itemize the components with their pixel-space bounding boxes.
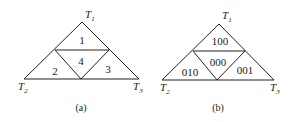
caption-b: (b) [212, 102, 224, 114]
caption-a: (a) [75, 102, 86, 114]
region-center-b: 000 [210, 56, 227, 68]
vertex-t2-b: T2 [160, 81, 170, 96]
region-right-b: 001 [237, 64, 254, 76]
vertex-t3-a: T3 [133, 80, 143, 95]
vertex-t3-b: T3 [270, 81, 280, 96]
region-left-b: 010 [182, 66, 199, 78]
figure-a [24, 22, 139, 79]
region-left-a: 2 [52, 65, 58, 77]
region-top-b: 100 [212, 35, 229, 47]
vertex-t1-a: T1 [85, 8, 95, 23]
outer-triangle-b [162, 24, 274, 80]
region-right-a: 3 [105, 63, 111, 75]
region-center-a: 4 [78, 55, 84, 67]
region-top-a: 1 [79, 34, 85, 46]
vertex-t1-b: T1 [222, 9, 232, 24]
diagram-canvas: T1 T2 T3 1 2 4 3 (a) T1 T2 T3 100 010 00… [0, 0, 295, 122]
vertex-t2-a: T2 [18, 80, 28, 95]
figure-b [162, 24, 274, 80]
